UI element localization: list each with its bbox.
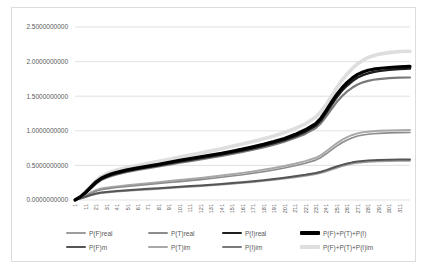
x-axis-tick-label: 21 [93, 204, 99, 210]
x-axis-tick-label: 271 [355, 204, 361, 213]
x-axis-tick-label: 251 [334, 204, 340, 213]
x-axis-tick-label: 41 [114, 204, 120, 210]
x-axis-tick-label: 141 [219, 204, 225, 213]
x-axis-tick-label: 221 [303, 204, 309, 213]
x-axis-tick-label: 81 [156, 204, 162, 210]
x-axis-tick-label: 231 [313, 204, 319, 213]
chart-frame: 0.00000000000.50000000001.00000000001.50… [11, 7, 416, 262]
x-axis-tick-label: 91 [166, 204, 172, 210]
x-axis-tick-label: 71 [145, 204, 151, 210]
x-axis-tick-label: 111 [187, 204, 193, 212]
x-axis-tick-label: 51 [125, 204, 131, 210]
y-axis-tick-label: 2.5000000000 [26, 23, 68, 30]
x-axis-tick-label: 291 [376, 204, 382, 213]
x-axis-tick-label: 301 [386, 204, 392, 213]
line-chart-canvas: 0.00000000000.50000000001.00000000001.50… [12, 8, 415, 261]
x-axis-tick-label: 201 [282, 204, 288, 213]
x-axis-tick-label: 11 [83, 204, 89, 210]
y-axis-tick-label: 2.0000000000 [26, 58, 68, 65]
x-axis-tick-label: 31 [104, 204, 110, 210]
x-axis-tick-label: 181 [261, 204, 267, 213]
x-axis-tick-label: 131 [208, 204, 214, 213]
y-axis-tick-label: 1.5000000000 [26, 93, 68, 100]
x-axis-tick-label: 281 [365, 204, 371, 213]
x-axis-tick-label: 101 [177, 204, 183, 213]
x-axis-tick-label: 311 [397, 204, 403, 213]
y-axis-tick-label: 0.0000000000 [26, 196, 68, 203]
x-axis-tick-label: 61 [135, 204, 141, 210]
x-axis-tick-label: 211 [292, 204, 298, 213]
x-axis-tick-label: 1 [72, 204, 78, 207]
x-axis-tick-label: 241 [323, 204, 329, 213]
x-axis-tick-label: 161 [240, 204, 246, 213]
x-axis-tick-label: 121 [198, 204, 204, 213]
x-axis-tick-label: 261 [344, 204, 350, 213]
y-axis-tick-label: 0.5000000000 [26, 162, 68, 169]
y-axis-tick-label: 1.0000000000 [26, 127, 68, 134]
x-axis-tick-label: 191 [271, 204, 277, 213]
x-axis-tick-label: 151 [229, 204, 235, 213]
x-axis-tick-label: 171 [250, 204, 256, 213]
series-line-p-i-real [75, 69, 410, 200]
